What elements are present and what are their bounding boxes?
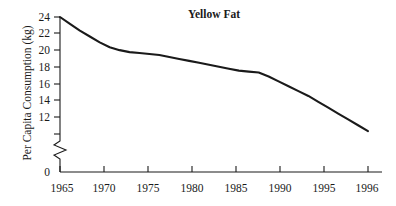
x-tick-label-1985: 1985 [225,182,248,194]
y-tick-label-20: 20 [39,44,51,56]
y-tick-label-24: 24 [39,11,51,23]
x-tick-label-1965: 1965 [51,182,74,194]
x-tick-marks [60,166,368,172]
chart-title: Yellow Fat [188,8,240,20]
y-axis-title: Per Capita Consumption (kg) [21,25,34,160]
y-tick-label-12: 12 [39,111,51,123]
y-tick-label-14: 14 [39,94,51,106]
y-tick-label-0: 0 [44,166,50,178]
x-tick-label-1980: 1980 [181,182,204,194]
y-tick-marks [54,17,60,134]
chart-container: Yellow Fat Per Capita Consumption (kg) 2… [0,0,396,206]
yellow-fat-line-chart: Yellow Fat Per Capita Consumption (kg) 2… [0,0,396,206]
x-tick-label-1975: 1975 [137,182,160,194]
x-tick-label-1996: 1996 [356,182,379,194]
y-tick-label-18: 18 [39,61,51,73]
x-tick-label-1990: 1990 [269,182,292,194]
y-tick-label-22: 22 [39,27,51,39]
x-tick-label-1995: 1995 [313,182,336,194]
data-series-yellow-fat [60,17,368,131]
x-tick-label-1970: 1970 [93,182,116,194]
y-tick-label-16: 16 [39,78,51,90]
